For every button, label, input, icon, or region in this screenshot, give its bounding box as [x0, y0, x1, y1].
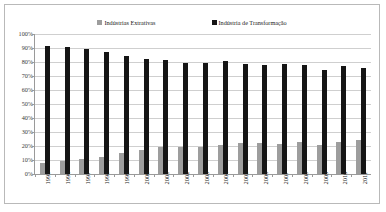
bar-transformacao: [361, 68, 366, 174]
x-axis-tick-label: 2005: [242, 172, 249, 185]
x-axis-cell: 1999: [113, 176, 133, 204]
plot-wrapper: 100%90%80%70%60%50%40%30%20%10%0% 199519…: [5, 5, 379, 203]
bar-transformacao: [322, 70, 327, 174]
x-axis-tick-label: 1999: [123, 172, 130, 185]
x-axis-tick-label: 2009: [322, 172, 329, 185]
bar-group: [173, 34, 193, 174]
bar-group: [351, 34, 371, 174]
x-axis-cell: 2008: [292, 176, 312, 204]
x-axis-cell: 1995: [34, 176, 54, 204]
x-axis-cell: 2006: [252, 176, 272, 204]
bar-group: [312, 34, 332, 174]
x-axis-tick-label: 2010: [341, 172, 348, 185]
bar-transformacao: [144, 59, 149, 175]
bar-group: [233, 34, 253, 174]
bar-transformacao: [124, 56, 129, 174]
bar-transformacao: [45, 46, 50, 174]
x-axis-tick-label: 2011: [361, 172, 368, 185]
bar-transformacao: [183, 63, 188, 174]
x-axis-cell: 2004: [212, 176, 232, 204]
x-axis-tick-label: 2008: [302, 172, 309, 185]
bar-group: [75, 34, 95, 174]
bar-group: [193, 34, 213, 174]
x-axis-tick-label: 2000: [143, 172, 150, 185]
bar-group: [55, 34, 75, 174]
bar-group: [292, 34, 312, 174]
x-axis-cell: 2005: [232, 176, 252, 204]
x-axis-tick-label: 2004: [222, 172, 229, 185]
x-axis-cell: 2011: [351, 176, 371, 204]
bar-transformacao: [163, 60, 168, 174]
bar-group: [154, 34, 174, 174]
bar-group: [331, 34, 351, 174]
x-axis-cell: 1997: [74, 176, 94, 204]
x-axis-cell: 2003: [193, 176, 213, 204]
y-axis: 100%90%80%70%60%50%40%30%20%10%0%: [7, 31, 33, 177]
bar-groups: [35, 34, 371, 174]
bar-transformacao: [282, 64, 287, 174]
x-axis-tick-label: 1996: [64, 172, 71, 185]
bar-group: [94, 34, 114, 174]
bar-group: [272, 34, 292, 174]
y-axis-tick-label: 100%: [19, 30, 33, 38]
x-axis-cell: 2002: [173, 176, 193, 204]
x-axis-cell: 1998: [93, 176, 113, 204]
x-axis-cell: 1996: [54, 176, 74, 204]
x-axis-cell: 2001: [153, 176, 173, 204]
x-axis-cell: 2010: [331, 176, 351, 204]
x-axis-tick-label: 1995: [44, 172, 51, 185]
bar-transformacao: [65, 47, 70, 174]
bar-transformacao: [262, 65, 267, 174]
x-axis-cell: 2007: [272, 176, 292, 204]
bar-transformacao: [341, 66, 346, 174]
x-axis-tick-label: 1997: [84, 172, 91, 185]
x-axis-tick-label: 2001: [163, 172, 170, 185]
x-axis-tick-label: 2002: [183, 172, 190, 185]
x-axis-cell: 2000: [133, 176, 153, 204]
bar-group: [252, 34, 272, 174]
bar-transformacao: [203, 63, 208, 174]
bar-group: [134, 34, 154, 174]
bar-transformacao: [104, 52, 109, 174]
x-axis-tick-label: 1998: [103, 172, 110, 185]
bar-group: [35, 34, 55, 174]
x-axis: 1995199619971998199920002001200220032004…: [34, 176, 371, 204]
plot-area: [34, 34, 371, 175]
bar-group: [213, 34, 233, 174]
bar-transformacao: [302, 65, 307, 174]
x-axis-cell: 2009: [312, 176, 332, 204]
bar-transformacao: [84, 49, 89, 174]
bar-group: [114, 34, 134, 174]
bar-transformacao: [243, 64, 248, 174]
x-axis-tick-label: 2007: [282, 172, 289, 185]
x-axis-tick-label: 2003: [203, 172, 210, 185]
bar-transformacao: [223, 61, 228, 174]
chart-container: Indústrias Extrativas Indústria de Trans…: [4, 4, 380, 204]
x-axis-tick-label: 2006: [262, 172, 269, 185]
